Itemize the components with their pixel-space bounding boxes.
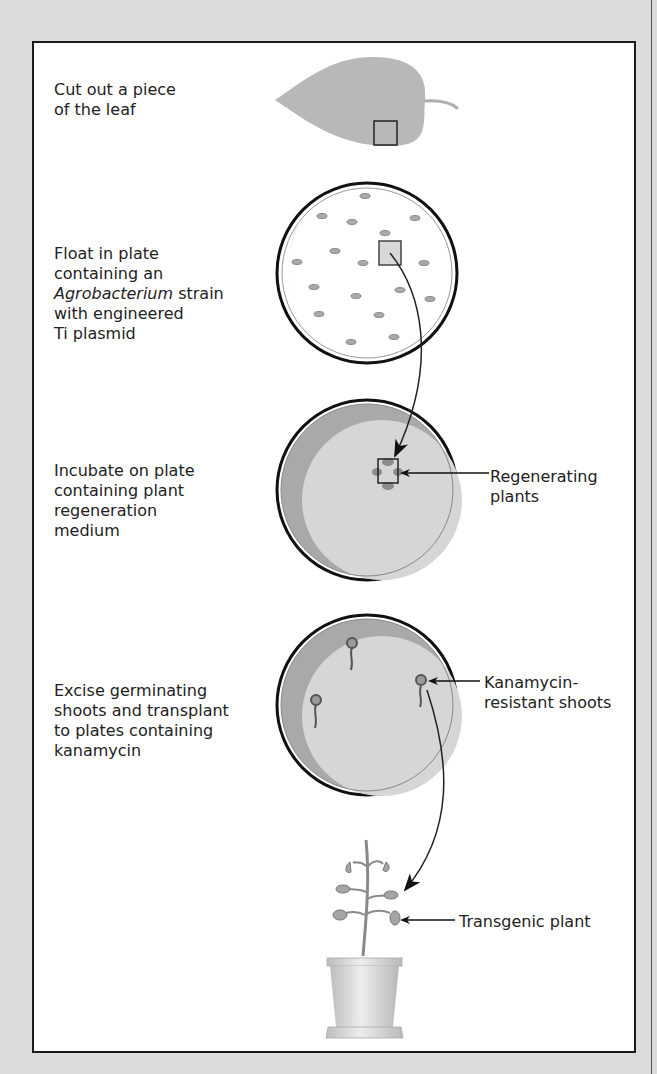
flower-pot-icon xyxy=(326,958,403,1038)
leaf-icon xyxy=(275,57,457,146)
diagram-illustration xyxy=(0,0,657,1074)
petri-dish-agrobacterium xyxy=(277,183,457,363)
transgenic-plant-icon xyxy=(333,840,400,956)
petri-dish-kanamycin xyxy=(277,615,462,796)
petri-dish-regeneration xyxy=(277,400,462,580)
